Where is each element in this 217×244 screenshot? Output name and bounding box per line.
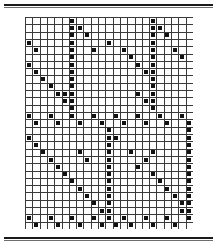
bottom-rule [4, 237, 213, 239]
figure-frame [0, 0, 217, 244]
bottom-thin-rule [4, 240, 213, 241]
sparsity-grid-canvas [25, 17, 193, 229]
top-thin-rule [4, 7, 213, 8]
sparsity-plot [25, 17, 193, 229]
top-rule [4, 4, 213, 6]
